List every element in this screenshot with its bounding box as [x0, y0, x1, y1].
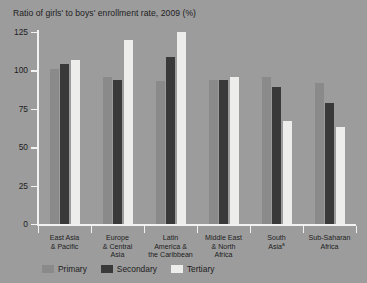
bar-secondary — [219, 80, 228, 224]
y-axis-tick-label: 50 — [0, 142, 28, 152]
bar-secondary — [325, 103, 334, 224]
bar-group — [91, 32, 144, 224]
x-axis-separator — [197, 226, 198, 233]
bar-group — [250, 32, 303, 224]
chart-legend: PrimarySecondaryTertiary — [42, 264, 214, 274]
legend-label: Tertiary — [187, 264, 214, 274]
bar-primary — [209, 80, 218, 224]
x-axis-separator — [38, 226, 39, 233]
bar-tertiary — [124, 40, 133, 224]
legend-item-secondary[interactable]: Secondary — [101, 264, 157, 274]
y-axis-tick-label: 125 — [0, 27, 28, 37]
x-axis-separator — [356, 226, 357, 233]
x-axis-separator — [91, 226, 92, 233]
x-axis-separator — [303, 226, 304, 233]
bar-primary — [315, 83, 324, 224]
x-axis-category-label: Sub-SaharanAfrica — [303, 234, 356, 251]
x-axis-category-label: East Asia& Pacific — [38, 234, 91, 251]
legend-swatch-icon — [101, 265, 113, 273]
y-axis-tick — [31, 70, 38, 71]
y-axis-tick — [31, 186, 38, 187]
bar-tertiary — [71, 60, 80, 224]
x-axis-separator — [144, 226, 145, 233]
bar-primary — [262, 77, 271, 224]
x-axis-category-label: LatinAmerica &the Caribbean — [144, 234, 197, 260]
bar-secondary — [272, 87, 281, 224]
y-axis-tick-label: 0 — [0, 219, 28, 229]
bar-group — [303, 32, 356, 224]
bar-tertiary — [230, 77, 239, 224]
legend-item-tertiary[interactable]: Tertiary — [171, 264, 214, 274]
x-axis-category-label: Europe& CentralAsia — [91, 234, 144, 260]
bar-tertiary — [177, 32, 186, 224]
bar-secondary — [113, 80, 122, 224]
bar-secondary — [60, 64, 69, 224]
bar-secondary — [166, 57, 175, 224]
legend-label: Primary — [58, 264, 87, 274]
y-axis-tick — [31, 109, 38, 110]
bar-primary — [103, 77, 112, 224]
bar-group — [197, 32, 250, 224]
y-axis-tick-label: 75 — [0, 104, 28, 114]
bar-group — [144, 32, 197, 224]
bar-primary — [50, 69, 59, 224]
footnote-marker: a — [282, 241, 285, 246]
legend-label: Secondary — [117, 264, 157, 274]
plot-area — [38, 32, 356, 224]
y-axis-tick-label: 100 — [0, 65, 28, 75]
y-axis-tick — [31, 32, 38, 33]
bar-primary — [156, 81, 165, 224]
legend-item-primary[interactable]: Primary — [42, 264, 87, 274]
y-axis-tick — [31, 224, 38, 225]
x-axis-category-label: Middle East& NorthAfrica — [197, 234, 250, 260]
x-axis-category-label: SouthAsiaa — [250, 234, 303, 251]
y-axis-tick — [31, 147, 38, 148]
legend-swatch-icon — [42, 265, 54, 273]
x-axis-separator — [250, 226, 251, 233]
chart-title: Ratio of girls' to boys' enrollment rate… — [13, 8, 196, 18]
bar-tertiary — [283, 121, 292, 224]
bar-group — [38, 32, 91, 224]
bar-tertiary — [336, 127, 345, 224]
legend-swatch-icon — [171, 265, 183, 273]
chart-figure: Ratio of girls' to boys' enrollment rate… — [0, 0, 367, 283]
y-axis-tick-label: 25 — [0, 181, 28, 191]
